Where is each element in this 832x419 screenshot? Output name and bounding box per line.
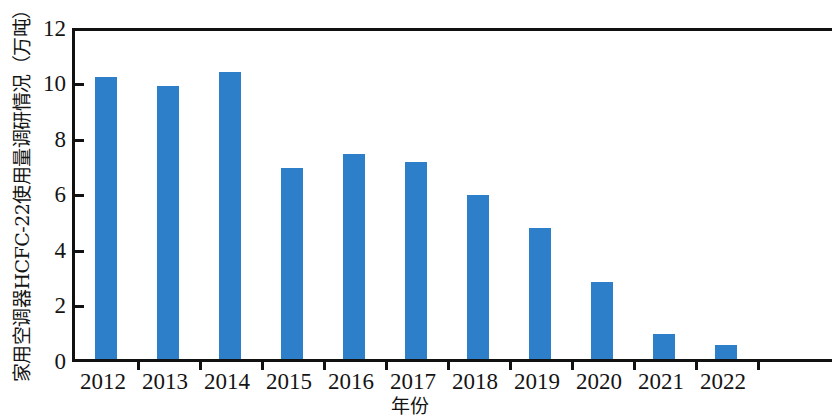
- bar-2016[interactable]: [343, 154, 365, 359]
- x-tick-label-2016: 2016: [320, 368, 382, 396]
- x-tick-label-2020: 2020: [568, 368, 630, 396]
- x-tick-label-2013: 2013: [134, 368, 196, 396]
- bar-2012[interactable]: [95, 77, 117, 359]
- bar-2015[interactable]: [281, 168, 303, 359]
- y-tick-mark-4: [75, 250, 84, 253]
- y-tick-mark-8: [75, 139, 84, 142]
- x-tick-label-2015: 2015: [258, 368, 320, 396]
- bar-2022[interactable]: [715, 345, 737, 359]
- plot-area: [72, 28, 832, 362]
- bar-2019[interactable]: [529, 228, 551, 359]
- y-tick-label-8: 8: [18, 128, 66, 151]
- bar-2018[interactable]: [467, 195, 489, 359]
- x-tick-label-2012: 2012: [72, 368, 134, 396]
- bar-2017[interactable]: [405, 162, 427, 359]
- y-tick-mark-6: [75, 194, 84, 197]
- bar-2014[interactable]: [219, 72, 241, 359]
- x-tick-label-2017: 2017: [382, 368, 444, 396]
- y-tick-label-12: 12: [18, 17, 66, 40]
- bar-2021[interactable]: [653, 334, 675, 359]
- x-tick-label-2018: 2018: [444, 368, 506, 396]
- x-tick-label-2022: 2022: [692, 368, 754, 396]
- y-tick-mark-2: [75, 305, 84, 308]
- y-axis-tick-label-group: 12 10 8 6 4 2 0: [18, 0, 66, 419]
- y-tick-label-0: 0: [18, 350, 66, 373]
- x-tick-label-2014: 2014: [196, 368, 258, 396]
- x-tick-label-2019: 2019: [506, 368, 568, 396]
- y-tick-label-6: 6: [18, 183, 66, 206]
- x-tick-label-2021: 2021: [630, 368, 692, 396]
- y-tick-mark-10: [75, 83, 84, 86]
- y-tick-label-10: 10: [18, 72, 66, 95]
- bar-2020[interactable]: [591, 282, 613, 359]
- x-axis-title: 年份: [0, 394, 820, 418]
- y-tick-label-2: 2: [18, 294, 66, 317]
- bar-2013[interactable]: [157, 86, 179, 359]
- y-tick-label-4: 4: [18, 239, 66, 262]
